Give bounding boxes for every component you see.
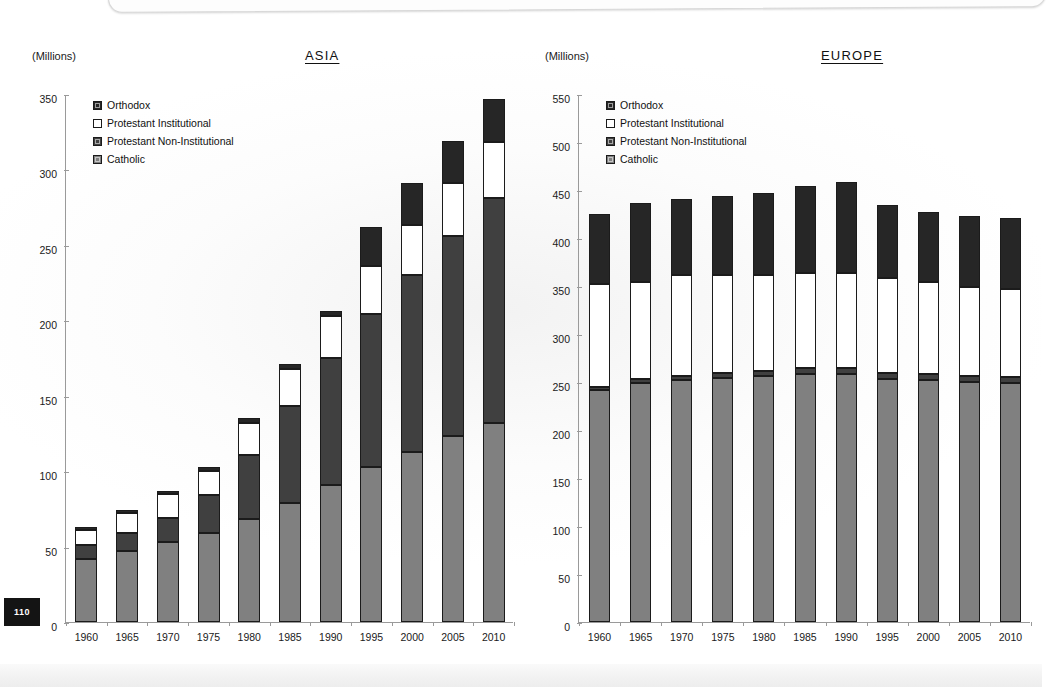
asia-bar-1985-segment-orthodox — [279, 364, 301, 369]
europe-bar-1990[interactable] — [836, 182, 857, 622]
europe-bar-2000[interactable] — [918, 212, 939, 622]
europe-legend-item-catholic: Catholic — [606, 153, 747, 166]
asia-bar-2000-segment-protestant-institutional — [401, 225, 423, 275]
europe-ytick-label-200: 200 — [552, 430, 579, 441]
europe-bar-1995[interactable] — [877, 205, 898, 622]
europe-bar-1960[interactable] — [589, 214, 610, 622]
asia-xtick-mark-1960 — [66, 622, 67, 626]
asia-bar-1980-segment-protestant-institutional — [238, 423, 260, 455]
asia-bar-1960[interactable] — [75, 527, 97, 622]
europe-xtick-mark-2000 — [908, 622, 909, 626]
europe-legend-swatch-protestant_institutional-icon — [606, 119, 615, 128]
asia-bar-1970[interactable] — [157, 491, 179, 622]
europe-bar-1965-segment-catholic — [630, 383, 651, 622]
asia-bar-1965-segment-protestant-non-institutional — [116, 533, 138, 551]
europe-bar-2010[interactable] — [1000, 218, 1021, 622]
europe-bar-1980-segment-catholic — [753, 376, 774, 622]
europe-bar-1995-segment-orthodox — [877, 205, 898, 278]
europe-bar-1980[interactable] — [753, 193, 774, 622]
asia-xtick-label-1960: 1960 — [75, 631, 98, 643]
asia-xtick-label-1985: 1985 — [278, 631, 301, 643]
asia-ytick-label-250: 250 — [39, 245, 66, 256]
europe-bar-1965-segment-protestant-institutional — [630, 282, 651, 379]
europe-bar-1960-segment-protestant-institutional — [589, 284, 610, 387]
asia-bar-1970-segment-catholic — [157, 542, 179, 622]
europe-xtick-label-1995: 1995 — [875, 631, 898, 643]
asia-bar-2005[interactable] — [442, 141, 464, 622]
asia-bar-1990[interactable] — [320, 311, 342, 622]
asia-bar-1995-segment-catholic — [360, 467, 382, 622]
asia-bar-1980[interactable] — [238, 418, 260, 622]
asia-ytick-label-0: 0 — [51, 622, 66, 633]
europe-bar-1985[interactable] — [795, 186, 816, 622]
asia-legend-item-orthodox: Orthodox — [93, 99, 234, 112]
asia-bar-1995[interactable] — [360, 227, 382, 622]
asia-bar-1975-segment-catholic — [198, 533, 220, 622]
asia-ytick-label-150: 150 — [39, 396, 66, 407]
asia-bar-2000-segment-protestant-non-institutional — [401, 275, 423, 451]
asia-bar-1965-segment-protestant-institutional — [116, 513, 138, 533]
asia-bar-1995-segment-protestant-non-institutional — [360, 314, 382, 466]
asia-bar-1980-segment-catholic — [238, 519, 260, 622]
asia-xtick-label-1990: 1990 — [319, 631, 342, 643]
europe-ytick-label-550: 550 — [552, 94, 579, 105]
europe-ytick-label-250: 250 — [552, 382, 579, 393]
asia-legend-label-orthodox: Orthodox — [107, 100, 150, 111]
asia-legend-label-catholic: Catholic — [107, 154, 145, 165]
europe-xtick-mark-2010 — [990, 622, 991, 626]
asia-xtick-mark-1975 — [188, 622, 189, 626]
asia-bar-2010-segment-orthodox — [483, 99, 505, 143]
europe-bar-1990-segment-orthodox — [836, 182, 857, 272]
europe-bar-2005-segment-orthodox — [959, 216, 980, 287]
asia-bar-1990-segment-protestant-institutional — [320, 316, 342, 358]
asia-bar-1970-segment-orthodox — [157, 491, 179, 494]
europe-legend-label-protestant_non_institutional: Protestant Non-Institutional — [620, 136, 747, 147]
asia-bar-1975[interactable] — [198, 467, 220, 622]
asia-bar-2010[interactable] — [483, 99, 505, 622]
europe-bar-2000-segment-catholic — [918, 380, 939, 622]
europe-bar-1995-segment-protestant-non-institutional — [877, 373, 898, 379]
europe-bar-2010-segment-catholic — [1000, 383, 1021, 622]
asia-xtick-mark-1985 — [270, 622, 271, 626]
europe-legend-item-protestant_institutional: Protestant Institutional — [606, 117, 747, 130]
europe-bar-1985-segment-catholic — [795, 374, 816, 622]
europe-bar-1985-segment-protestant-institutional — [795, 273, 816, 368]
europe-xtick-label-1980: 1980 — [752, 631, 775, 643]
europe-bar-1980-segment-protestant-non-institutional — [753, 371, 774, 377]
europe-legend: OrthodoxProtestant InstitutionalProtesta… — [606, 99, 747, 171]
europe-bar-1975-segment-protestant-institutional — [712, 275, 733, 374]
asia-bar-1970-segment-protestant-institutional — [157, 494, 179, 518]
europe-bar-1975[interactable] — [712, 196, 733, 622]
europe-bar-1970[interactable] — [671, 199, 692, 622]
europe-bar-1970-segment-protestant-institutional — [671, 275, 692, 376]
asia-bar-1990-segment-catholic — [320, 485, 342, 622]
europe-xtick-mark-1975 — [702, 622, 703, 626]
asia-bar-2000[interactable] — [401, 183, 423, 622]
asia-legend-swatch-protestant_institutional-icon — [93, 119, 102, 128]
asia-legend-swatch-protestant_non_institutional-icon — [93, 137, 102, 146]
europe-ytick-label-100: 100 — [552, 526, 579, 537]
europe-bar-1970-segment-catholic — [671, 380, 692, 622]
europe-bar-1965-segment-protestant-non-institutional — [630, 379, 651, 383]
asia-xtick-mark-2010 — [473, 622, 474, 626]
europe-chart-title: EUROPE — [821, 48, 883, 63]
europe-bar-1960-segment-catholic — [589, 390, 610, 622]
europe-legend-item-orthodox: Orthodox — [606, 99, 747, 112]
europe-bar-1995-segment-catholic — [877, 379, 898, 622]
asia-xtick-label-2005: 2005 — [441, 631, 464, 643]
europe-bar-1965[interactable] — [630, 203, 651, 622]
europe-xtick-mark-1970 — [661, 622, 662, 626]
asia-bar-1975-segment-protestant-institutional — [198, 471, 220, 495]
asia-bar-1985-segment-catholic — [279, 503, 301, 622]
europe-xtick-label-1965: 1965 — [629, 631, 652, 643]
europe-bar-1990-segment-protestant-non-institutional — [836, 368, 857, 375]
europe-bar-2000-segment-orthodox — [918, 212, 939, 282]
europe-bar-1995-segment-protestant-institutional — [877, 278, 898, 373]
europe-bar-2005[interactable] — [959, 216, 980, 622]
asia-bar-1985[interactable] — [279, 364, 301, 622]
europe-bar-1965-segment-orthodox — [630, 203, 651, 282]
europe-xtick-label-1970: 1970 — [670, 631, 693, 643]
europe-bar-1970-segment-protestant-non-institutional — [671, 376, 692, 380]
europe-legend-swatch-catholic-icon — [606, 155, 615, 164]
asia-bar-1965[interactable] — [116, 510, 138, 622]
